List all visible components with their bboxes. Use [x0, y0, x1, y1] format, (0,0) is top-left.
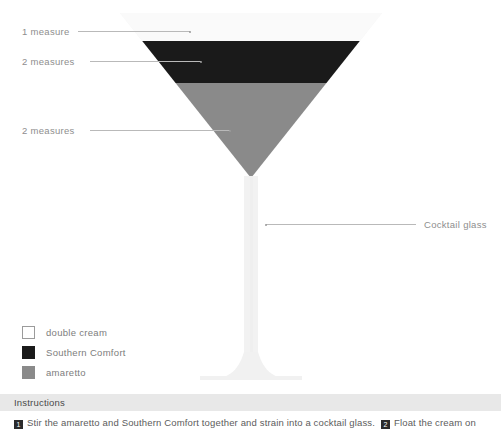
step-number-1: 1 [14, 420, 23, 429]
callout-anchor-amaretto [229, 130, 231, 132]
step-number-2: 2 [381, 420, 390, 429]
callout-leader-southern-comfort [90, 61, 201, 62]
legend-item-double-cream: double cream [22, 322, 126, 342]
callout-anchor-double-cream [189, 31, 191, 33]
legend-label-amaretto: amaretto [46, 367, 86, 378]
legend-swatch-southern-comfort [22, 346, 35, 359]
liquid-layers [100, 13, 410, 183]
callout-leader-cocktail-glass [266, 224, 416, 225]
instructions-section: Instructions 1 Stir the amaretto and Sou… [0, 394, 501, 428]
legend-item-amaretto: amaretto [22, 362, 126, 382]
instructions-title: Instructions [14, 397, 65, 408]
step-text-2: Float the cream on [394, 417, 476, 428]
callout-anchor-cocktail-glass [265, 224, 267, 226]
step-text-1: Stir the amaretto and Southern Comfort t… [27, 417, 375, 428]
instructions-header: Instructions [0, 394, 501, 411]
glass-stem-highlight [250, 176, 253, 362]
layer-amaretto [100, 83, 410, 183]
glass-foot-base [200, 376, 302, 380]
instructions-body: 1 Stir the amaretto and Southern Comfort… [0, 411, 501, 428]
legend-item-southern-comfort: Southern Comfort [22, 342, 126, 362]
legend-swatch-amaretto [22, 366, 35, 379]
glass-foot [203, 352, 299, 380]
callout-label-southern-comfort: 2 measures [22, 56, 75, 67]
callout-anchor-southern-comfort [200, 61, 202, 63]
legend: double cream Southern Comfort amaretto [22, 322, 126, 382]
legend-swatch-double-cream [22, 326, 35, 339]
callout-leader-double-cream [78, 31, 190, 32]
legend-label-southern-comfort: Southern Comfort [46, 347, 126, 358]
layer-southern-comfort [100, 41, 410, 83]
layer-double-cream [100, 13, 410, 41]
callout-label-double-cream: 1 measure [22, 26, 70, 37]
legend-label-double-cream: double cream [46, 327, 107, 338]
callout-leader-amaretto [90, 130, 230, 131]
callout-label-amaretto: 2 measures [22, 125, 75, 136]
callout-label-cocktail-glass: Cocktail glass [424, 219, 487, 230]
cocktail-diagram: 1 measure 2 measures 2 measures Cocktail… [0, 0, 501, 392]
